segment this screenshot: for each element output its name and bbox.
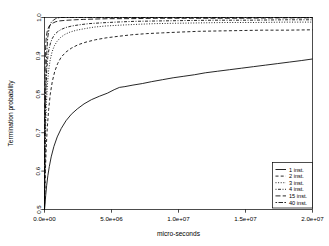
legend-label-2: 3 inst. xyxy=(289,180,304,186)
legend-label-1: 2 inst. xyxy=(289,173,304,179)
x-tick-label: 1.0e+07 xyxy=(167,215,190,222)
y-tick-label: 1.0 xyxy=(35,13,42,22)
legend-label-3: 4 inst. xyxy=(289,186,304,192)
chart-figure: 0.0e+005.0e+061.0e+071.5e+072.0e+07 0.50… xyxy=(0,0,329,246)
y-tick-label: 0.9 xyxy=(35,51,42,60)
x-tick-label: 0.0e+00 xyxy=(33,215,56,222)
figure-background xyxy=(0,0,329,246)
y-tick-label: 0.7 xyxy=(35,128,42,137)
x-tick-label: 2.0e+07 xyxy=(301,215,324,222)
legend-label-4: 15 inst. xyxy=(289,193,307,199)
y-axis-title: Termination probability xyxy=(7,80,15,147)
y-tick-label: 0.8 xyxy=(35,89,42,98)
legend-label-0: 1 inst. xyxy=(289,167,304,173)
legend: 1 inst.2 inst.3 inst.4 inst.15 inst.40 i… xyxy=(273,163,313,209)
legend-label-5: 40 inst. xyxy=(289,200,307,206)
plot-canvas: 0.0e+005.0e+061.0e+071.5e+072.0e+07 0.50… xyxy=(0,0,329,246)
x-tick-label: 1.5e+07 xyxy=(234,215,257,222)
y-tick-label: 0.6 xyxy=(35,166,42,175)
x-axis-title: micro-seconds xyxy=(157,230,201,237)
x-tick-label: 5.0e+06 xyxy=(100,215,123,222)
y-tick-label: 0.5 xyxy=(35,205,42,214)
